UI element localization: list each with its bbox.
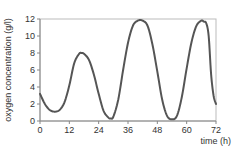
oxygen-concentration-chart: 0122436486072 024681012 time (h) oxygen … (0, 0, 233, 149)
series-line (40, 20, 216, 119)
x-axis-title: time (h) (200, 136, 231, 146)
x-ticks: 0122436486072 (37, 121, 221, 135)
plot-frame (40, 19, 216, 121)
x-tick-label: 12 (64, 125, 74, 135)
x-tick-label: 48 (152, 125, 162, 135)
y-tick-label: 4 (30, 82, 35, 92)
y-tick-label: 0 (30, 116, 35, 126)
x-tick-label: 36 (123, 125, 133, 135)
x-tick-label: 60 (182, 125, 192, 135)
y-tick-label: 6 (30, 65, 35, 75)
y-tick-label: 2 (30, 99, 35, 109)
y-ticks: 024681012 (25, 14, 40, 126)
y-tick-label: 8 (30, 48, 35, 58)
y-tick-label: 10 (25, 31, 35, 41)
x-tick-label: 0 (37, 125, 42, 135)
x-tick-label: 72 (211, 125, 221, 135)
y-tick-label: 12 (25, 14, 35, 24)
x-tick-label: 24 (94, 125, 104, 135)
y-axis-title: oxygen concentration (g/l) (3, 18, 13, 122)
